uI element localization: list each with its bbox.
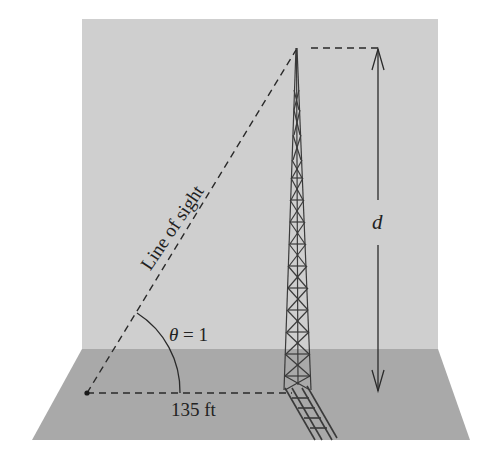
theta-symbol: θ: [169, 324, 178, 345]
observer-point: [84, 390, 89, 395]
theta-value: = 1: [178, 324, 208, 345]
tower-diagram: Line of sight θ = 1 135 ft d: [0, 0, 492, 466]
angle-label: θ = 1: [169, 325, 208, 344]
diagram-canvas: [0, 0, 492, 466]
distance-label: 135 ft: [171, 400, 216, 419]
backdrop-wall: [82, 19, 438, 350]
ground-plane: [32, 349, 470, 440]
height-label: d: [372, 212, 383, 233]
